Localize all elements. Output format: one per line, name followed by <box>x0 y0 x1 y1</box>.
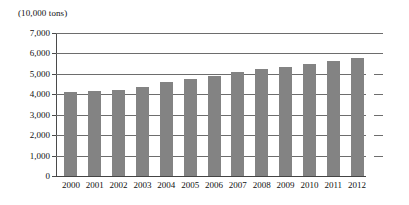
gridline <box>56 53 383 54</box>
x-axis-tick-label: 2004 <box>157 180 175 190</box>
x-axis-tick-label: 2009 <box>277 180 295 190</box>
y-axis-tick <box>52 74 56 75</box>
x-axis-tick-label: 2011 <box>324 180 342 190</box>
y-axis-line <box>56 33 57 176</box>
bar <box>88 91 101 176</box>
bar <box>208 76 221 176</box>
y-axis-tick <box>52 94 56 95</box>
x-axis-tick-label: 2001 <box>86 180 104 190</box>
y-axis-tick-label: 7,000 <box>30 28 50 38</box>
x-axis-tick-label: 2005 <box>181 180 199 190</box>
x-axis-tick-label: 2002 <box>110 180 128 190</box>
gridline <box>56 33 383 34</box>
y-axis-tick-label: 5,000 <box>30 69 50 79</box>
x-axis-tick-label: 2006 <box>205 180 223 190</box>
x-axis-tick-label: 2010 <box>300 180 318 190</box>
y-axis-tick <box>52 156 56 157</box>
bar <box>255 69 268 176</box>
y-axis-tick-label: 0 <box>46 171 51 181</box>
y-axis-tick-label: 4,000 <box>30 89 50 99</box>
bar <box>160 82 173 176</box>
bar <box>136 87 149 176</box>
x-axis-tick-label: 2007 <box>229 180 247 190</box>
y-axis-tick <box>52 176 56 177</box>
y-axis-unit-label: (10,000 tons) <box>18 8 67 18</box>
y-axis-right-tick <box>374 135 383 136</box>
bar <box>327 61 340 176</box>
bar <box>279 67 292 176</box>
x-axis-tick-label: 2008 <box>253 180 271 190</box>
y-axis-right-tick <box>374 156 383 157</box>
y-axis-tick <box>52 53 56 54</box>
plot-area: 01,0002,0003,0004,0005,0006,0007,000 200… <box>56 33 383 176</box>
bar <box>184 79 197 176</box>
bar <box>112 90 125 176</box>
y-axis-tick-label: 3,000 <box>30 110 50 120</box>
y-axis-tick-label: 2,000 <box>30 130 50 140</box>
x-axis-tick-label: 2003 <box>133 180 151 190</box>
y-axis-tick-label: 6,000 <box>30 48 50 58</box>
bar <box>303 64 316 176</box>
y-axis-tick <box>52 115 56 116</box>
bar <box>231 72 244 176</box>
y-axis-tick <box>52 135 56 136</box>
x-axis-tick-label: 2000 <box>62 180 80 190</box>
y-axis-right-tick <box>374 94 383 95</box>
bar <box>351 58 364 176</box>
gridline <box>56 176 366 177</box>
bar <box>64 92 77 176</box>
y-axis-tick-label: 1,000 <box>30 151 50 161</box>
x-axis-tick-label: 2012 <box>348 180 366 190</box>
y-axis-tick <box>52 33 56 34</box>
y-axis-right-tick <box>374 115 383 116</box>
gridline <box>56 74 366 75</box>
y-axis-right-tick <box>374 74 383 75</box>
chart-figure: (10,000 tons) 01,0002,0003,0004,0005,000… <box>0 0 409 205</box>
